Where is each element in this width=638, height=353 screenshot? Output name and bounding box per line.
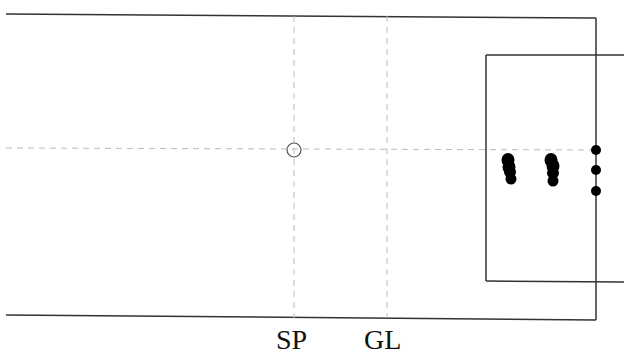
sp-label: SP: [276, 326, 307, 353]
player-goal-line: [591, 145, 601, 196]
gl-label: GL: [364, 326, 401, 353]
player-cluster-1: [502, 153, 517, 185]
pitch-diagram: [0, 0, 638, 353]
player-cluster-2: [545, 153, 560, 187]
